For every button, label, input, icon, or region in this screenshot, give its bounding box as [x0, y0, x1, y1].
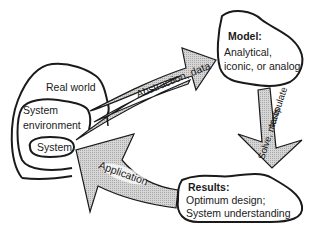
- real-world-boundary-bottom: [22, 176, 72, 179]
- diagram-canvas: Abstraction, data Model: Analytical, ico…: [0, 0, 312, 239]
- model-line2: iconic, or analog: [224, 60, 301, 72]
- results-title: Results:: [188, 181, 229, 193]
- system-environment-label-line1: System: [23, 104, 58, 116]
- real-world-label: Real world: [46, 81, 96, 93]
- results-line2: System understanding: [186, 207, 291, 219]
- model-title: Model:: [228, 30, 262, 42]
- system-environment-label-line2: environment: [23, 119, 81, 131]
- results-line1: Optimum design;: [186, 194, 265, 206]
- system-label: System: [37, 141, 72, 153]
- model-line1: Analytical,: [224, 46, 272, 58]
- abstraction-arrow-tail-line: [107, 116, 108, 126]
